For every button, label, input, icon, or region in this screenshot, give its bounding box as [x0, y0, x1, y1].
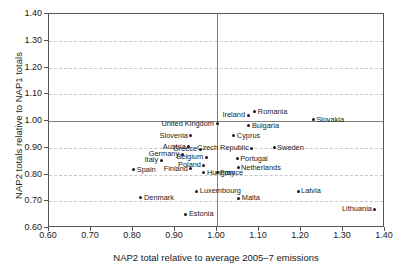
- data-point[interactable]: [205, 156, 208, 159]
- y-tick-label: 1.00: [0, 115, 48, 125]
- y-tick-label: 1.30: [0, 35, 48, 45]
- x-tick-mark: [90, 227, 91, 231]
- data-point[interactable]: [195, 190, 198, 193]
- x-tick-label: 0.70: [81, 230, 99, 240]
- x-tick-mark: [384, 227, 385, 231]
- data-point[interactable]: [373, 208, 376, 211]
- x-tick-mark: [258, 227, 259, 231]
- data-point-label: Malta: [242, 194, 260, 202]
- data-point-label: Czech Republic: [197, 144, 249, 152]
- x-tick-mark: [132, 227, 133, 231]
- x-tick-label: 1.10: [249, 230, 267, 240]
- data-point[interactable]: [236, 157, 239, 160]
- data-point-label: Lithuania: [342, 205, 372, 213]
- data-point[interactable]: [247, 114, 250, 117]
- data-point[interactable]: [184, 213, 187, 216]
- x-tick-mark: [300, 227, 301, 231]
- data-point-label: Bulgaria: [252, 122, 279, 130]
- data-point-label: Slovakia: [316, 116, 344, 124]
- y-tick-mark: [44, 40, 48, 41]
- x-tick-label: 0.90: [165, 230, 183, 240]
- data-point[interactable]: [312, 118, 315, 121]
- x-tick-mark: [216, 227, 217, 231]
- data-point-label: Italy: [145, 156, 159, 164]
- data-point-label: Denmark: [144, 194, 174, 202]
- x-tick-label: 0.60: [39, 230, 57, 240]
- y-tick-label: 0.80: [0, 169, 48, 179]
- data-point[interactable]: [237, 197, 240, 200]
- y-tick-mark: [44, 13, 48, 14]
- data-point[interactable]: [139, 196, 142, 199]
- x-tick-mark: [342, 227, 343, 231]
- data-point[interactable]: [202, 164, 205, 167]
- data-point[interactable]: [232, 134, 235, 137]
- y-tick-label: 1.40: [0, 8, 48, 18]
- data-point-label: Estonia: [189, 210, 214, 218]
- x-tick-label: 1.30: [333, 230, 351, 240]
- y-tick-mark: [44, 147, 48, 148]
- data-point-label: France: [220, 169, 243, 177]
- data-point-label: Sweden: [277, 144, 304, 152]
- gridline-y-1.20: [49, 68, 383, 69]
- data-point-label: Romania: [258, 108, 288, 116]
- y-tick-mark: [44, 174, 48, 175]
- data-point-label: Spain: [137, 166, 156, 174]
- y-tick-label: 0.70: [0, 195, 48, 205]
- x-axis-title: NAP2 total relative to average 2005–7 em…: [48, 252, 384, 263]
- data-point[interactable]: [247, 124, 250, 127]
- data-point-label: Netherlands: [241, 164, 281, 172]
- data-point-label: United Kingdom: [161, 120, 214, 128]
- y-tick-mark: [44, 200, 48, 201]
- data-point-label: Luxembourg: [200, 187, 241, 195]
- data-point[interactable]: [189, 134, 192, 137]
- data-point-label: Cyprus: [237, 132, 260, 140]
- y-tick-label: 1.20: [0, 62, 48, 72]
- data-point-label: Latvia: [301, 187, 321, 195]
- x-tick-label: 0.80: [123, 230, 141, 240]
- scatter-chart: SlovakiaRomaniaIrelandUnited KingdomBulg…: [0, 0, 397, 277]
- data-point-label: Ireland: [222, 111, 245, 119]
- data-point[interactable]: [132, 168, 135, 171]
- data-point[interactable]: [160, 159, 163, 162]
- y-tick-label: 1.10: [0, 88, 48, 98]
- data-point[interactable]: [273, 146, 276, 149]
- x-tick-label: 1.00: [207, 230, 225, 240]
- y-tick-mark: [44, 67, 48, 68]
- data-point[interactable]: [216, 122, 219, 125]
- y-tick-mark: [44, 120, 48, 121]
- x-tick-mark: [48, 227, 49, 231]
- x-tick-label: 1.20: [291, 230, 309, 240]
- data-point[interactable]: [250, 147, 253, 150]
- data-point-label: Slovenia: [160, 132, 188, 140]
- x-tick-mark: [174, 227, 175, 231]
- plot-area: SlovakiaRomaniaIrelandUnited KingdomBulg…: [48, 13, 384, 227]
- y-axis-title: NAP2 totals relative to NAP1 totals: [13, 21, 24, 231]
- data-point-label: Portugal: [240, 155, 268, 163]
- x-tick-label: 1.40: [375, 230, 393, 240]
- gridline-y-1.10: [49, 94, 383, 95]
- y-tick-mark: [44, 93, 48, 94]
- data-point-label: Finland: [164, 165, 188, 173]
- gridline-y-0.70: [49, 201, 383, 202]
- data-point[interactable]: [253, 110, 256, 113]
- y-tick-label: 0.90: [0, 142, 48, 152]
- gridline-y-1.30: [49, 41, 383, 42]
- data-point[interactable]: [297, 190, 300, 193]
